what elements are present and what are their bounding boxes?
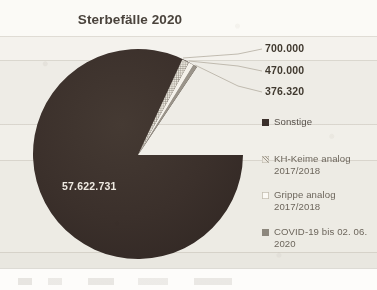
legend-label-sonstige: Sonstige	[274, 116, 312, 129]
legend-label-covid19: COVID-19 bis 02. 06. 2020	[274, 226, 375, 251]
data-label-470000: 470.000	[265, 64, 304, 76]
legend-swatch-filled-dark-square-icon	[262, 119, 269, 126]
legend-swatch-outlined-light-square-icon	[262, 192, 269, 199]
legend-item-kh-keime[interactable]: KH-Keime analog 2017/2018	[262, 153, 375, 178]
page-bottom-text-smudge	[18, 278, 268, 285]
legend-item-covid19[interactable]: COVID-19 bis 02. 06. 2020	[262, 226, 375, 251]
legend-swatch-filled-gray-square-icon	[262, 229, 269, 236]
legend-item-sonstige[interactable]: Sonstige	[262, 116, 375, 129]
legend-item-grippe[interactable]: Grippe analog 2017/2018	[262, 189, 375, 214]
leader-line-470000	[189, 61, 262, 71]
legend-label-grippe: Grippe analog 2017/2018	[274, 189, 375, 214]
legend-swatch-hatched-square-icon	[262, 156, 269, 163]
leader-line-700000	[183, 49, 262, 58]
data-label-sonstige: 57.622.731	[62, 180, 117, 192]
data-label-376320: 376.320	[265, 85, 304, 97]
data-label-700000: 700.000	[265, 42, 304, 54]
chart-legend: Sonstige KH-Keime analog 2017/2018 Gripp…	[262, 116, 375, 261]
legend-label-kh-keime: KH-Keime analog 2017/2018	[274, 153, 375, 178]
scanned-page: Sterbefälle 2020	[0, 0, 377, 290]
pie-slice-sonstige	[33, 49, 243, 259]
